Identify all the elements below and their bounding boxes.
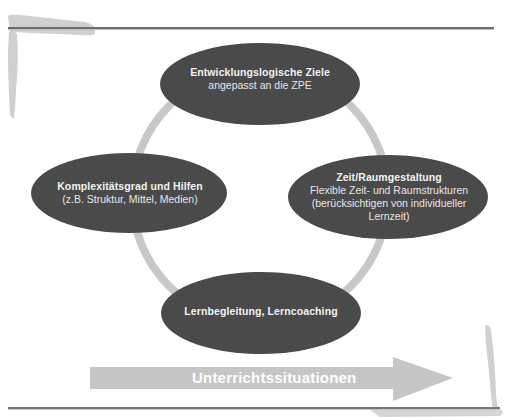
node-left: Komplexitätsgrad und Hilfen (z.B. Strukt… [57, 180, 203, 206]
brush-stroke-right [485, 325, 498, 409]
top-rule-shadow [8, 29, 494, 30]
node-right-title: Zeit/Raumgestaltung [310, 171, 468, 184]
top-rule [8, 27, 494, 29]
brush-stroke-bottom-right [370, 409, 503, 417]
node-left-title: Komplexitätsgrad und Hilfen [57, 180, 203, 193]
node-top-title: Entwicklungslogische Ziele [190, 66, 330, 79]
node-top: Entwicklungslogische Ziele angepasst an … [190, 66, 330, 92]
node-bottom: Lernbegleitung, Lerncoaching [184, 305, 337, 318]
bottom-rule [8, 407, 500, 409]
arrow-label: Unterrichtssituationen [192, 368, 356, 388]
node-right: Zeit/Raumgestaltung Flexible Zeit- und R… [310, 171, 468, 223]
node-right-line-3: Lernzeit) [310, 210, 468, 223]
brush-stroke-top-left [8, 15, 95, 36]
bottom-rule-shadow [8, 409, 500, 410]
node-right-line-1: Flexible Zeit- und Raumstrukturen [310, 184, 468, 197]
node-left-subtitle: (z.B. Struktur, Mittel, Medien) [57, 193, 203, 206]
brush-stroke-left [8, 31, 18, 118]
node-top-subtitle: angepasst an die ZPE [190, 79, 330, 92]
node-bottom-title: Lernbegleitung, Lerncoaching [184, 305, 337, 318]
node-right-line-2: (berücksichtigen von individueller [310, 197, 468, 210]
